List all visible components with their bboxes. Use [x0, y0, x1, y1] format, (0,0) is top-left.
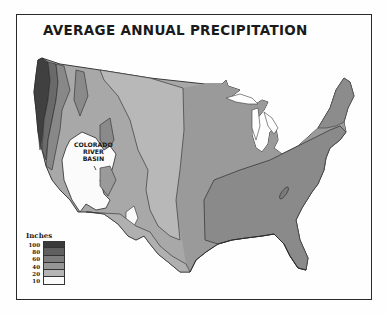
- legend-swatch: [43, 256, 65, 263]
- legend-item: 80: [26, 248, 65, 255]
- legend-swatch: [43, 241, 65, 248]
- colorado-river-basin-label: COLORADO RIVER BASIN: [74, 141, 113, 162]
- basin-label-line-2: RIVER: [74, 148, 113, 155]
- legend-item: 60: [26, 256, 65, 263]
- legend-item: 100: [26, 241, 65, 248]
- legend-item: 40: [26, 263, 65, 270]
- basin-label-line-1: COLORADO: [74, 141, 113, 148]
- legend: Inches 100 80 60 40 20 10: [26, 231, 65, 285]
- legend-swatch: [43, 248, 65, 255]
- basin-label-line-3: BASIN: [74, 155, 113, 162]
- region-northeast: [318, 78, 354, 128]
- lake-michigan: [252, 108, 260, 140]
- legend-label: 80: [26, 249, 43, 255]
- legend-swatch: [43, 263, 65, 270]
- legend-label: 20: [26, 271, 43, 277]
- legend-swatch: [43, 270, 65, 277]
- legend-label: 40: [26, 264, 43, 270]
- lake-huron-erie: [264, 112, 278, 134]
- legend-swatch: [43, 277, 65, 284]
- legend-label: 60: [26, 256, 43, 262]
- legend-item: 20: [26, 270, 65, 277]
- legend-label: 100: [26, 242, 43, 248]
- legend-item: 10: [26, 277, 65, 284]
- legend-label: 10: [26, 278, 43, 284]
- legend-title: Inches: [26, 231, 65, 240]
